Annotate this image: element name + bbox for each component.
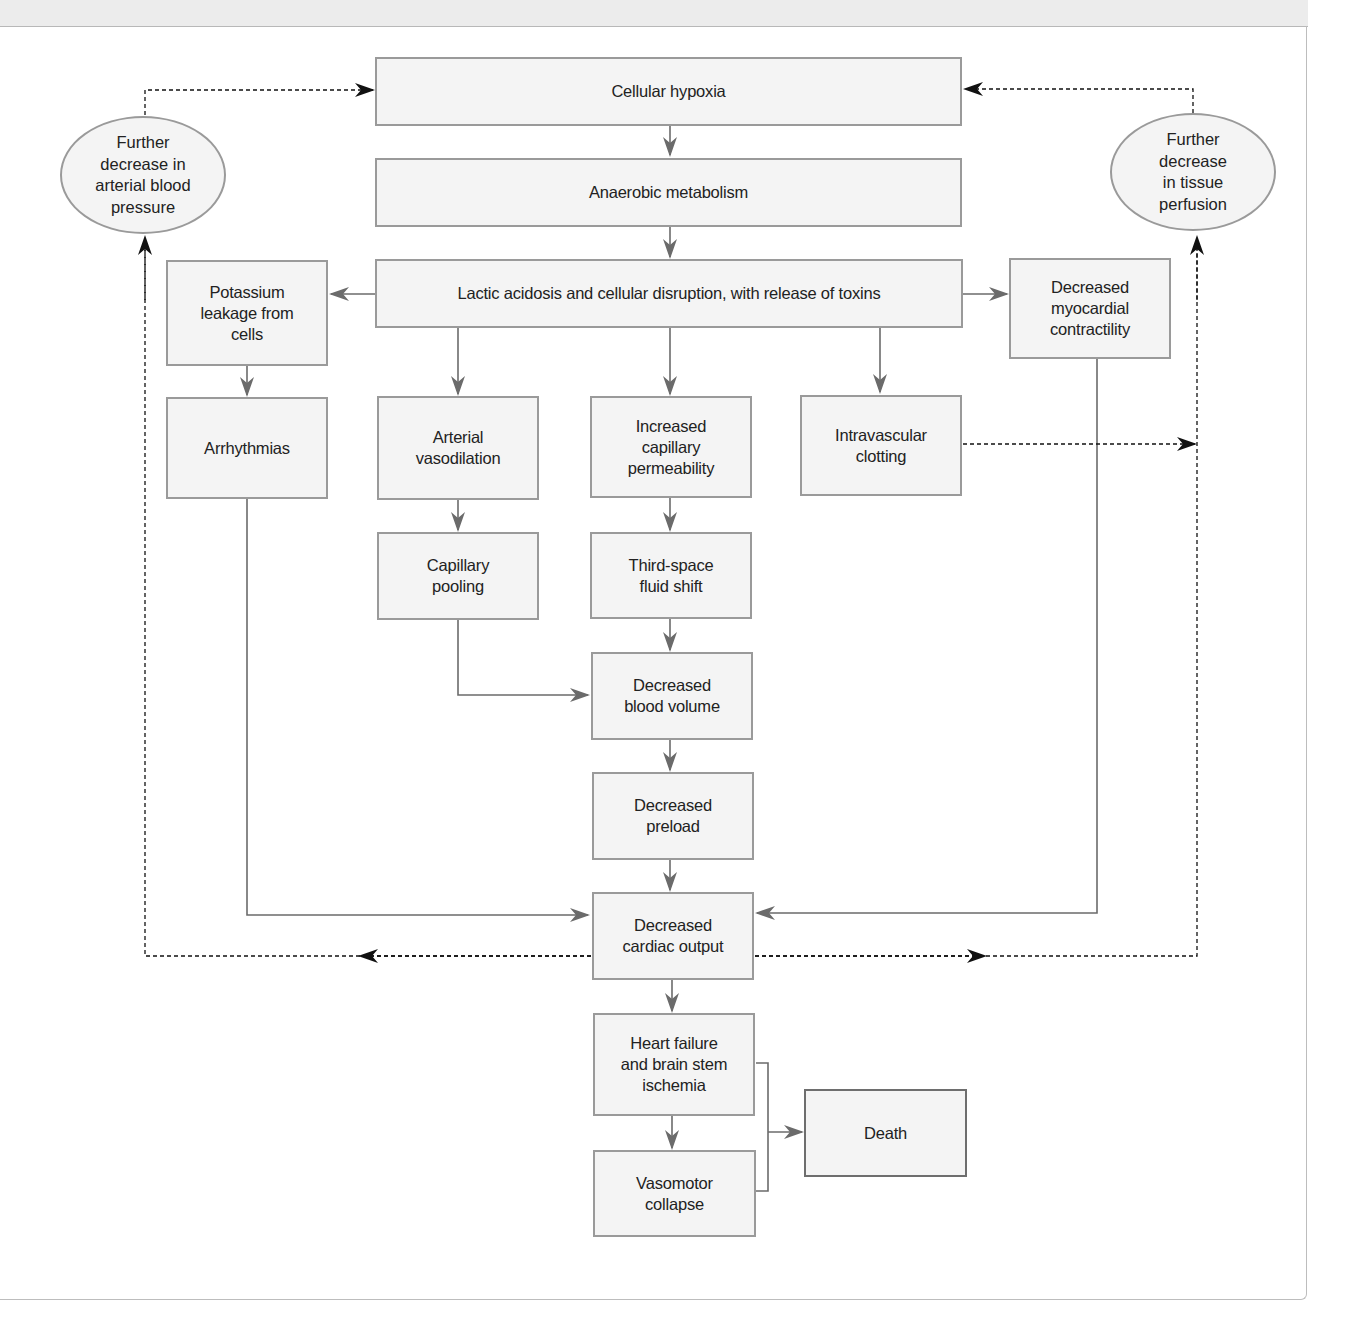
node-lactic-acidosis: Lactic acidosis and cellular disruption,…: [375, 259, 963, 328]
node-label: Death: [864, 1123, 907, 1144]
node-label: Arrhythmias: [204, 438, 290, 459]
node-label: Increased capillary permeability: [628, 416, 715, 479]
arrow-pooling-to-bloodvolume: [458, 620, 588, 695]
node-label: Intravascular clotting: [835, 425, 927, 467]
oval-label: Further decrease in tissue perfusion: [1159, 129, 1227, 215]
node-label: Potassium leakage from cells: [201, 282, 294, 345]
node-death: Death: [804, 1089, 967, 1177]
node-label: Anaerobic metabolism: [589, 182, 748, 203]
node-vasomotor-collapse: Vasomotor collapse: [593, 1150, 756, 1237]
node-cellular-hypoxia: Cellular hypoxia: [375, 57, 962, 126]
bracket-to-death: [756, 1063, 768, 1191]
node-label: Decreased blood volume: [624, 675, 720, 717]
node-decreased-cardiac-output: Decreased cardiac output: [592, 892, 754, 980]
node-label: Vasomotor collapse: [636, 1173, 713, 1215]
node-decreased-blood-volume: Decreased blood volume: [591, 652, 753, 740]
node-label: Third-space fluid shift: [629, 555, 714, 597]
oval-label: Further decrease in arterial blood press…: [95, 132, 190, 218]
node-capillary-pooling: Capillary pooling: [377, 532, 539, 620]
node-arterial-vasodilation: Arterial vasodilation: [377, 396, 539, 500]
node-decreased-preload: Decreased preload: [592, 772, 754, 860]
node-decreased-myocardial-contractility: Decreased myocardial contractility: [1009, 258, 1171, 359]
node-arrhythmias: Arrhythmias: [166, 397, 328, 499]
node-label: Cellular hypoxia: [611, 81, 725, 102]
dashed-bp-to-hypoxia: [145, 90, 373, 115]
node-label: Heart failure and brain stem ischemia: [621, 1033, 727, 1096]
node-increased-capillary-permeability: Increased capillary permeability: [590, 396, 752, 498]
node-heart-failure: Heart failure and brain stem ischemia: [593, 1013, 755, 1116]
node-potassium-leakage: Potassium leakage from cells: [166, 260, 328, 366]
node-intravascular-clotting: Intravascular clotting: [800, 395, 962, 496]
node-label: Decreased preload: [634, 795, 712, 837]
node-anaerobic-metabolism: Anaerobic metabolism: [375, 158, 962, 227]
node-label: Lactic acidosis and cellular disruption,…: [457, 283, 880, 304]
oval-further-decrease-bp: Further decrease in arterial blood press…: [60, 116, 226, 234]
node-label: Capillary pooling: [427, 555, 489, 597]
oval-further-decrease-perfusion: Further decrease in tissue perfusion: [1110, 113, 1276, 231]
node-label: Decreased cardiac output: [623, 915, 724, 957]
dashed-perfusion-to-hypoxia: [965, 89, 1193, 113]
node-label: Arterial vasodilation: [416, 427, 501, 469]
node-label: Decreased myocardial contractility: [1050, 277, 1130, 340]
node-third-space-fluid-shift: Third-space fluid shift: [590, 532, 752, 619]
